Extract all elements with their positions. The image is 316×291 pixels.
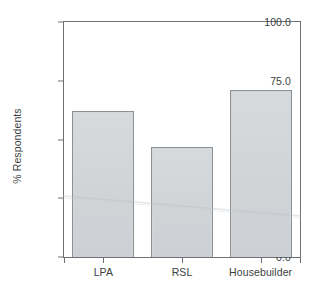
bar bbox=[72, 111, 134, 257]
plot-area: 0.025.050.075.0100.0 LPARSLHousebuilder bbox=[63, 21, 301, 258]
bar bbox=[151, 147, 213, 257]
y-axis-tick-label: 75.0 bbox=[270, 75, 291, 87]
y-axis-title: % Respondents bbox=[11, 108, 23, 183]
x-axis-tick-label: Housebuilder bbox=[229, 266, 292, 278]
bar-chart-figure: % Respondents 0.025.050.075.0100.0 LPARS… bbox=[0, 0, 316, 291]
x-axis-tick-label: RSL bbox=[172, 266, 193, 278]
x-axis-end-tick bbox=[300, 257, 301, 263]
x-axis-tick-label: LPA bbox=[94, 266, 113, 278]
bar bbox=[230, 90, 292, 257]
x-axis-tick bbox=[261, 257, 262, 263]
y-axis-tick bbox=[58, 139, 64, 140]
y-axis-tick-label: 100.0 bbox=[264, 16, 291, 28]
y-axis-tick bbox=[58, 22, 64, 23]
y-axis-tick bbox=[58, 198, 64, 199]
x-axis-end-tick bbox=[64, 257, 65, 263]
x-axis-tick bbox=[103, 257, 104, 263]
y-axis-tick bbox=[58, 80, 64, 81]
x-axis-tick bbox=[182, 257, 183, 263]
